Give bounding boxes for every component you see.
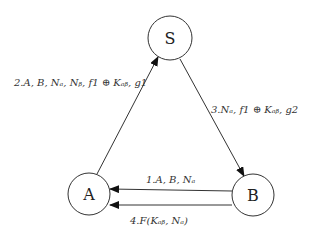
node-s: S bbox=[148, 16, 192, 60]
node-b: B bbox=[232, 174, 274, 216]
arrow-a-to-s bbox=[97, 57, 158, 174]
edge-msg1: 1.A, B, Nₐ bbox=[110, 174, 232, 191]
edge-label-msg4: 4.F(Kₐᵦ, Nₐ) bbox=[129, 215, 188, 226]
node-s-label: S bbox=[165, 29, 176, 48]
edge-label-msg2: 2.A, B, Nₐ, Nᵦ, f1 ⊕ Kₐᵦ, g1 bbox=[13, 77, 147, 88]
edge-label-msg1: 1.A, B, Nₐ bbox=[146, 174, 196, 185]
edge-msg4: 4.F(Kₐᵦ, Nₐ) bbox=[110, 205, 232, 226]
protocol-diagram: 2.A, B, Nₐ, Nᵦ, f1 ⊕ Kₐᵦ, g1 3.Nₐ, f1 ⊕ … bbox=[0, 0, 320, 242]
edge-label-msg3: 3.Nₐ, f1 ⊕ Kₐᵦ, g2 bbox=[211, 104, 298, 115]
arrow-s-to-b bbox=[180, 59, 244, 176]
arrow-b-to-a-msg1 bbox=[110, 189, 232, 191]
node-a-label: A bbox=[82, 185, 95, 204]
node-b-label: B bbox=[247, 186, 259, 205]
edge-msg3: 3.Nₐ, f1 ⊕ Kₐᵦ, g2 bbox=[180, 59, 298, 176]
edge-msg2: 2.A, B, Nₐ, Nᵦ, f1 ⊕ Kₐᵦ, g1 bbox=[13, 57, 158, 174]
node-a: A bbox=[68, 173, 110, 215]
